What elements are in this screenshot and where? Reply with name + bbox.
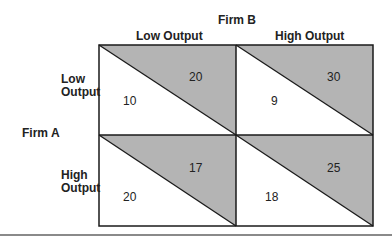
payoff-firm-b: 20 [189, 70, 202, 84]
row-header-high-line1: High [61, 168, 88, 182]
column-header-low: Low Output [136, 29, 203, 43]
payoff-firm-b: 17 [189, 161, 202, 175]
firm-b-label: Firm B [218, 13, 256, 27]
column-header-high: High Output [275, 29, 344, 43]
payoff-firm-a: 9 [271, 94, 278, 108]
payoff-firm-a: 18 [265, 190, 278, 204]
row-header-high-line2: Output [61, 181, 100, 195]
row-header-low-line2: Output [61, 85, 100, 99]
row-header-low-line1: Low [61, 72, 85, 86]
bottom-rule [0, 234, 392, 236]
payoff-firm-a: 20 [123, 190, 136, 204]
payoff-firm-a: 10 [123, 94, 136, 108]
firm-a-label: Firm A [22, 126, 60, 140]
payoff-firm-b: 30 [327, 70, 340, 84]
payoff-firm-b: 25 [327, 161, 340, 175]
